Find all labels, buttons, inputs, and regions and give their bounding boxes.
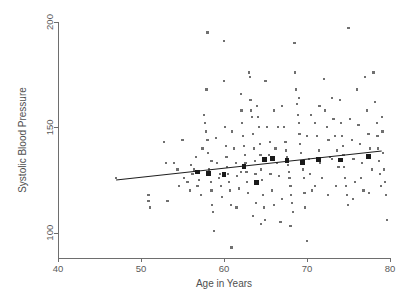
data-point: [221, 196, 223, 198]
data-point: [292, 211, 294, 213]
regression-line: [116, 151, 382, 180]
data-point: [302, 168, 304, 170]
data-point: [316, 135, 318, 137]
data-point: [249, 76, 251, 78]
data-point: [299, 143, 301, 145]
data-point: [374, 101, 376, 103]
data-point: [231, 130, 233, 132]
data-point: [218, 177, 220, 179]
data-points-layer: [115, 27, 388, 248]
data-point: [298, 97, 300, 99]
data-point: [224, 126, 226, 128]
data-point: [359, 143, 361, 145]
bin-mean-marker: [366, 154, 371, 159]
data-point: [240, 93, 242, 95]
data-point: [289, 185, 291, 187]
data-point: [210, 181, 212, 183]
data-point: [324, 109, 326, 111]
data-point: [281, 105, 283, 107]
y-tick-label-100: 100: [44, 225, 55, 241]
data-point: [233, 147, 235, 149]
data-point: [254, 173, 256, 175]
data-point: [274, 147, 276, 149]
data-point: [250, 109, 252, 111]
data-point: [386, 219, 388, 221]
data-point: [306, 135, 308, 137]
data-point: [343, 166, 345, 168]
data-point: [260, 168, 262, 170]
data-point: [319, 162, 321, 164]
data-point: [147, 194, 149, 196]
data-point: [223, 40, 225, 42]
data-point: [360, 177, 362, 179]
data-point: [242, 135, 244, 137]
data-point: [283, 126, 285, 128]
data-point: [384, 181, 386, 183]
data-point: [281, 198, 283, 200]
data-point: [205, 130, 207, 132]
data-point: [220, 185, 222, 187]
data-point: [248, 71, 250, 73]
data-point: [381, 116, 383, 118]
bin-mean-marker: [262, 157, 267, 162]
data-point: [225, 145, 227, 147]
data-point: [165, 162, 167, 164]
x-tick-label-60: 60: [219, 263, 230, 274]
data-point: [223, 80, 225, 82]
data-point: [331, 158, 333, 160]
data-point: [257, 116, 259, 118]
data-point: [190, 164, 192, 166]
data-point: [288, 177, 290, 179]
data-point: [178, 185, 180, 187]
data-point: [344, 177, 346, 179]
bin-mean-marker: [270, 156, 275, 161]
data-point: [366, 109, 368, 111]
data-point: [266, 126, 268, 128]
data-point: [244, 154, 246, 156]
data-point: [337, 166, 339, 168]
data-point: [264, 80, 266, 82]
data-point: [357, 124, 359, 126]
x-tick-label-50: 50: [136, 263, 147, 274]
data-point: [255, 202, 257, 204]
data-point: [176, 168, 178, 170]
data-point: [306, 240, 308, 242]
scatter-plot-figure: 1001502004050607080Age in YearsSystolic …: [0, 0, 408, 294]
data-point: [181, 139, 183, 141]
plot-canvas: 1001502004050607080Age in YearsSystolic …: [0, 0, 408, 294]
data-point: [376, 135, 378, 137]
data-point: [268, 154, 270, 156]
data-point: [227, 173, 229, 175]
data-point: [115, 177, 117, 179]
data-point: [300, 152, 302, 154]
data-point: [256, 105, 258, 107]
data-point: [304, 206, 306, 208]
x-tick-label-70: 70: [302, 263, 313, 274]
data-point: [289, 225, 291, 227]
data-point: [385, 194, 387, 196]
data-point: [193, 168, 195, 170]
data-point: [314, 185, 316, 187]
data-point: [262, 194, 264, 196]
data-point: [259, 154, 261, 156]
bin-mean-markers-layer: [195, 154, 371, 185]
data-point: [200, 194, 202, 196]
bin-mean-marker: [316, 157, 321, 162]
data-point: [236, 175, 238, 177]
data-point: [345, 185, 347, 187]
data-point: [372, 71, 374, 73]
bin-mean-marker: [206, 171, 211, 176]
data-point: [347, 204, 349, 206]
data-point: [260, 223, 262, 225]
data-point: [269, 141, 271, 143]
data-point: [215, 137, 217, 139]
data-point: [235, 162, 237, 164]
data-point: [341, 135, 343, 137]
data-point: [278, 175, 280, 177]
data-point: [238, 187, 240, 189]
data-point: [149, 206, 151, 208]
data-point: [252, 133, 254, 135]
data-point: [251, 116, 253, 118]
data-point: [183, 177, 185, 179]
data-point: [318, 105, 320, 107]
